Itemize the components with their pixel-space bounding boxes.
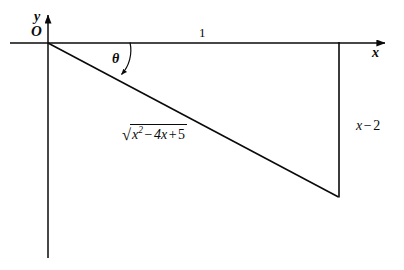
- radicand-operator-1: −: [143, 127, 154, 142]
- y-axis-label: y: [34, 10, 40, 24]
- opposite-side-label: x−2: [356, 119, 380, 133]
- theta-angle-arc: [122, 43, 131, 75]
- opposite-side-operator: −: [362, 118, 373, 133]
- math-figure-canvas: y O x θ 1 x−2 √x2−4x+5: [0, 0, 404, 270]
- theta-angle-label: θ: [112, 52, 119, 66]
- figure-vector-layer: [0, 0, 404, 270]
- opposite-side-constant: 2: [373, 118, 380, 133]
- x-axis-label: x: [372, 46, 379, 60]
- hypotenuse-side-label: √x2−4x+5: [122, 124, 187, 143]
- radicand-operator-2: +: [167, 127, 178, 142]
- radicand-term-3: 5: [178, 127, 185, 142]
- radical-expression: √x2−4x+5: [122, 124, 187, 143]
- origin-label: O: [31, 24, 42, 39]
- radicand-group: x2−4x+5: [130, 124, 187, 142]
- adjacent-side-label: 1: [199, 26, 206, 39]
- hypotenuse-line: [48, 43, 339, 197]
- radicand-term-2: 4x: [154, 127, 167, 142]
